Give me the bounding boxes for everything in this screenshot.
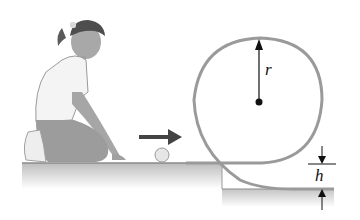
- radius-indicator: [255, 39, 263, 106]
- upper-platform: [22, 163, 222, 189]
- girl-figure: [24, 20, 126, 162]
- motion-arrow-icon: [139, 129, 182, 145]
- loop-center-dot: [256, 99, 263, 106]
- lower-platform: [222, 189, 334, 207]
- ball: [155, 148, 169, 162]
- loop-diagram: [0, 0, 360, 220]
- height-label: h: [315, 166, 324, 186]
- radius-label: r: [265, 60, 272, 80]
